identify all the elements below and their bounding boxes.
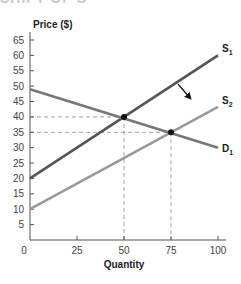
x-tick-label: 100 [210,245,227,256]
x-tick-label: 0 [21,245,27,256]
y-tick-label: 50 [13,81,25,92]
series-label-subscript: 1 [229,49,233,56]
series-label-subscript: 1 [229,149,233,156]
y-tick-label: 10 [13,204,25,215]
y-tick-label: 20 [13,173,25,184]
x-axis-label: Quantity [104,259,145,270]
equilibrium-point-e2 [168,129,174,135]
y-tick-label: 60 [13,50,25,61]
series-label-s2: S2 [222,95,233,108]
series-label-subscript: 2 [229,101,233,108]
x-tick-label: 75 [165,245,177,256]
equilibrium-point-e1 [121,114,127,120]
series-label-s1: S1 [222,43,233,56]
x-tick-label: 50 [118,245,130,256]
y-tick-label: 5 [18,219,24,230]
y-tick-label: 25 [13,158,25,169]
y-axis-label: Price ($) [33,19,72,30]
y-tick-label: 40 [13,111,25,122]
series-line-s2 [30,107,218,209]
y-tick-label: 45 [13,96,25,107]
supply-demand-chart: Price ($) 510152025303540455055606502550… [0,0,241,284]
series-label-d1: D1 [222,143,233,156]
y-tick-label: 65 [13,35,25,46]
x-tick-label: 25 [71,245,83,256]
y-tick-label: 35 [13,127,25,138]
y-tick-label: 55 [13,65,25,76]
shift-arrow-icon [178,84,190,98]
y-tick-label: 30 [13,142,25,153]
y-tick-label: 15 [13,188,25,199]
